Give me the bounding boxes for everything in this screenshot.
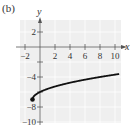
- svg-text:4: 4: [68, 51, 73, 61]
- x-axis-label: x: [124, 41, 130, 52]
- svg-text:10: 10: [111, 51, 121, 61]
- svg-text:2: 2: [53, 51, 58, 61]
- svg-text:6: 6: [83, 51, 88, 61]
- y-axis-label: y: [36, 6, 42, 17]
- svg-text:−2: −2: [20, 51, 30, 61]
- svg-text:−4: −4: [26, 72, 36, 82]
- svg-text:−8: −8: [26, 102, 36, 112]
- svg-text:8: 8: [98, 51, 103, 61]
- svg-text:2: 2: [32, 27, 37, 37]
- chart: −22468102−4−8−10 x y: [0, 0, 133, 132]
- svg-text:−10: −10: [22, 117, 37, 127]
